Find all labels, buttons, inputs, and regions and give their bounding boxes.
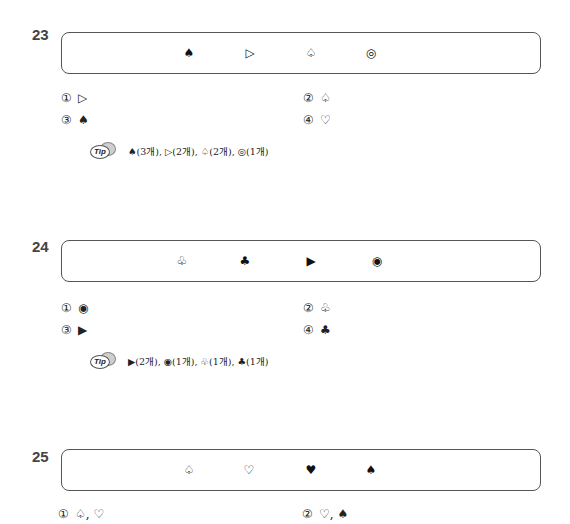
option-2[interactable]: ②♧ bbox=[303, 301, 331, 315]
tip-text: ♠(3개), ▷(2개), ♤(2개), ◎(1개) bbox=[128, 144, 269, 158]
symbol-box: ♠ ▷ ♤ ◎ bbox=[61, 32, 541, 74]
tip-icon: Tip bbox=[90, 352, 118, 370]
question-number: 25 bbox=[32, 448, 49, 465]
symbol: ♠ bbox=[366, 464, 377, 476]
symbol: ♠ bbox=[184, 47, 195, 59]
option-2[interactable]: ②♡, ♠ bbox=[302, 507, 348, 521]
symbol: ♡ bbox=[244, 464, 255, 476]
symbol: ◎ bbox=[366, 47, 376, 59]
option-4[interactable]: ④♣ bbox=[303, 323, 331, 337]
option-4[interactable]: ④♡ bbox=[303, 113, 331, 127]
tip: Tip ♠(3개), ▷(2개), ♤(2개), ◎(1개) bbox=[90, 142, 269, 160]
symbol-box: ♧ ♣ ▶ ◉ bbox=[61, 240, 541, 282]
symbol: ♤ bbox=[184, 464, 195, 476]
tip: Tip ▶(2개), ◉(1개), ♧(1개), ♣(1개) bbox=[90, 352, 269, 370]
option-2[interactable]: ②♤ bbox=[303, 91, 331, 105]
question-number: 23 bbox=[32, 26, 49, 43]
symbol-box: ♤ ♡ ♥ ♠ bbox=[61, 449, 541, 491]
option-1[interactable]: ①▷ bbox=[61, 91, 87, 105]
tip-icon: Tip bbox=[90, 142, 118, 160]
symbol: ♧ bbox=[177, 255, 188, 267]
option-3[interactable]: ③♠ bbox=[61, 113, 89, 127]
symbol: ◉ bbox=[372, 255, 382, 267]
option-1[interactable]: ①♤, ♡ bbox=[58, 507, 104, 521]
symbol: ▷ bbox=[245, 47, 254, 59]
symbol: ▶ bbox=[306, 255, 315, 267]
option-1[interactable]: ①◉ bbox=[61, 301, 88, 315]
symbol: ♤ bbox=[306, 47, 317, 59]
tip-text: ▶(2개), ◉(1개), ♧(1개), ♣(1개) bbox=[128, 354, 269, 368]
option-3[interactable]: ③▶ bbox=[61, 323, 87, 337]
symbol: ♥ bbox=[306, 464, 317, 476]
question-number: 24 bbox=[32, 238, 49, 255]
symbol: ♣ bbox=[240, 255, 251, 267]
